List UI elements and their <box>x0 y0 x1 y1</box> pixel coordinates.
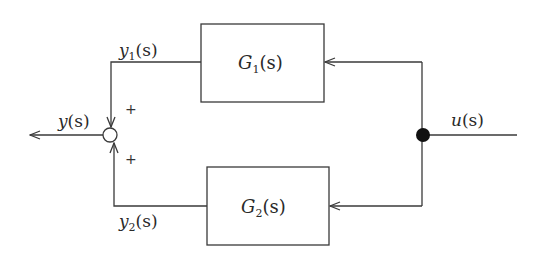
block-diagram: y(s) y1(s) y2(s) u(s) G1(s) G2(s) + + <box>0 0 545 263</box>
plus-sign-top: + <box>125 101 137 117</box>
summing-junction <box>103 128 117 142</box>
g2-label: G2(s) <box>241 196 286 220</box>
g1-label: G1(s) <box>238 52 283 76</box>
plus-sign-bottom: + <box>125 151 137 167</box>
output-label: y(s) <box>57 111 90 131</box>
y1-label: y1(s) <box>118 40 158 63</box>
branch-point <box>416 128 430 142</box>
y2-label: y2(s) <box>118 211 158 234</box>
y1-signal-line <box>111 62 201 127</box>
input-label: u(s) <box>451 110 484 130</box>
